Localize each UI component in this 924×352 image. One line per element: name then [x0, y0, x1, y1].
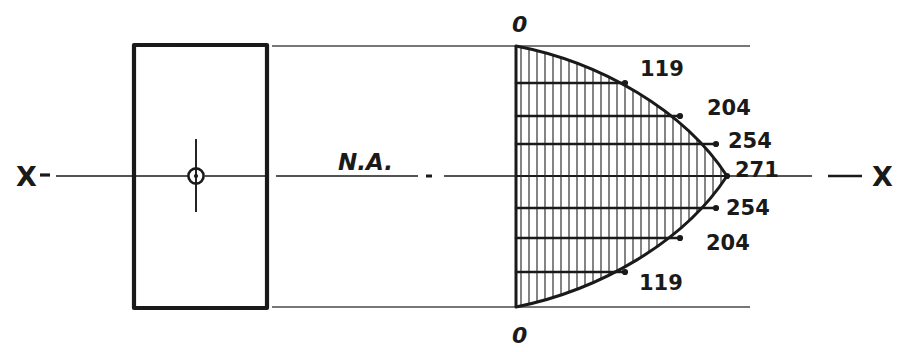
right-axis-label: X: [872, 161, 893, 192]
stress-label-upper-254: 254: [728, 129, 772, 153]
left-axis-label: X: [16, 161, 37, 192]
stress-label-lower-119: 119: [639, 271, 683, 295]
data-point-204-upper: [677, 113, 683, 119]
data-point-254-upper: [713, 141, 719, 147]
ordinate-lines: [516, 83, 716, 272]
neutral-axis-label: N.A.: [338, 149, 393, 175]
stress-curve-upper: [516, 46, 727, 176]
vertical-hatching: [521, 40, 721, 315]
stress-label-max-271: 271: [735, 158, 779, 182]
data-point-119-lower: [622, 269, 628, 275]
centroid-symbol: [188, 139, 203, 212]
stress-label-lower-254: 254: [726, 196, 770, 220]
data-point-119-upper: [622, 80, 628, 86]
shear-stress-diagram: X X N.A. 0 0 119 204 254 271 254 204 119: [0, 0, 924, 352]
stress-curve-lower: [516, 176, 727, 307]
data-point-271-max: [724, 173, 730, 179]
stress-label-lower-204: 204: [706, 231, 750, 255]
data-point-204-lower: [677, 235, 683, 241]
stress-label-top-zero: 0: [512, 12, 527, 37]
stress-distribution-group: [516, 40, 730, 315]
data-point-254-lower: [713, 205, 719, 211]
stress-label-upper-119: 119: [640, 57, 684, 81]
figure-canvas: X X N.A. 0 0 119 204 254 271 254 204 119: [0, 0, 924, 352]
stress-label-upper-204: 204: [707, 96, 751, 120]
stress-label-bottom-zero: 0: [512, 323, 527, 348]
